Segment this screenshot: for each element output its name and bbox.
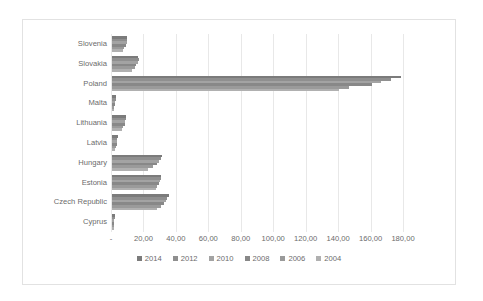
bar-group: [112, 113, 403, 133]
bar-group: [112, 54, 403, 74]
bar: [112, 227, 114, 230]
value-tick-label: 100,00: [262, 234, 285, 243]
value-tick-label: 20,00: [134, 234, 153, 243]
bar: [112, 109, 114, 112]
category-label: Slovenia: [23, 40, 107, 48]
value-tick-label: 180,00: [391, 234, 414, 243]
legend-label: 2014: [145, 254, 162, 263]
bar-group: [112, 93, 403, 113]
legend-swatch-icon: [173, 256, 178, 261]
bar-group: [112, 153, 403, 173]
bar-group: [112, 173, 403, 193]
bar: [112, 188, 156, 191]
category-label: Slovakia: [23, 60, 107, 68]
category-label: Czech Republic: [23, 198, 107, 206]
value-tick-label: 40,00: [166, 234, 185, 243]
value-tick-label: -: [110, 234, 113, 243]
bar: [112, 89, 339, 92]
bar-group: [112, 74, 403, 94]
category-label: Malta: [23, 99, 107, 107]
bar: [112, 69, 132, 72]
chart-container: SloveniaSlovakiaPolandMaltaLithuaniaLatv…: [22, 19, 456, 285]
legend-swatch-icon: [280, 256, 285, 261]
value-tick-label: 140,00: [326, 234, 349, 243]
bar: [112, 148, 115, 151]
legend-item[interactable]: 2010: [209, 254, 234, 263]
category-label: Cyprus: [23, 218, 107, 226]
legend-item[interactable]: 2008: [245, 254, 270, 263]
category-label: Lithuania: [23, 119, 107, 127]
value-axis-labels: -20,0040,0060,0080,00100,00120,00140,001…: [111, 234, 403, 248]
value-tick-label: 80,00: [231, 234, 250, 243]
gridline: [403, 34, 404, 232]
legend-label: 2004: [324, 254, 341, 263]
value-tick-label: 60,00: [199, 234, 218, 243]
bar-group: [112, 192, 403, 212]
bar: [112, 208, 157, 211]
category-label: Latvia: [23, 139, 107, 147]
chart-legend: 201420122010200820062004: [23, 254, 455, 263]
legend-item[interactable]: 2006: [280, 254, 305, 263]
value-tick-label: 160,00: [359, 234, 382, 243]
bar-group: [112, 212, 403, 232]
plot-area: [111, 34, 403, 232]
legend-label: 2006: [288, 254, 305, 263]
legend-label: 2008: [253, 254, 270, 263]
bar: [112, 168, 148, 171]
category-axis-labels: SloveniaSlovakiaPolandMaltaLithuaniaLatv…: [23, 34, 107, 232]
category-label: Poland: [23, 80, 107, 88]
category-label: Estonia: [23, 179, 107, 187]
value-tick-label: 120,00: [294, 234, 317, 243]
category-label: Hungary: [23, 159, 107, 167]
legend-label: 2010: [217, 254, 234, 263]
legend-label: 2012: [181, 254, 198, 263]
bar-group: [112, 34, 403, 54]
legend-item[interactable]: 2014: [137, 254, 162, 263]
bar: [112, 49, 123, 52]
legend-swatch-icon: [245, 256, 250, 261]
legend-item[interactable]: 2004: [316, 254, 341, 263]
bar: [112, 128, 122, 131]
legend-swatch-icon: [316, 256, 321, 261]
legend-item[interactable]: 2012: [173, 254, 198, 263]
legend-swatch-icon: [137, 256, 142, 261]
legend-swatch-icon: [209, 256, 214, 261]
bar-group: [112, 133, 403, 153]
